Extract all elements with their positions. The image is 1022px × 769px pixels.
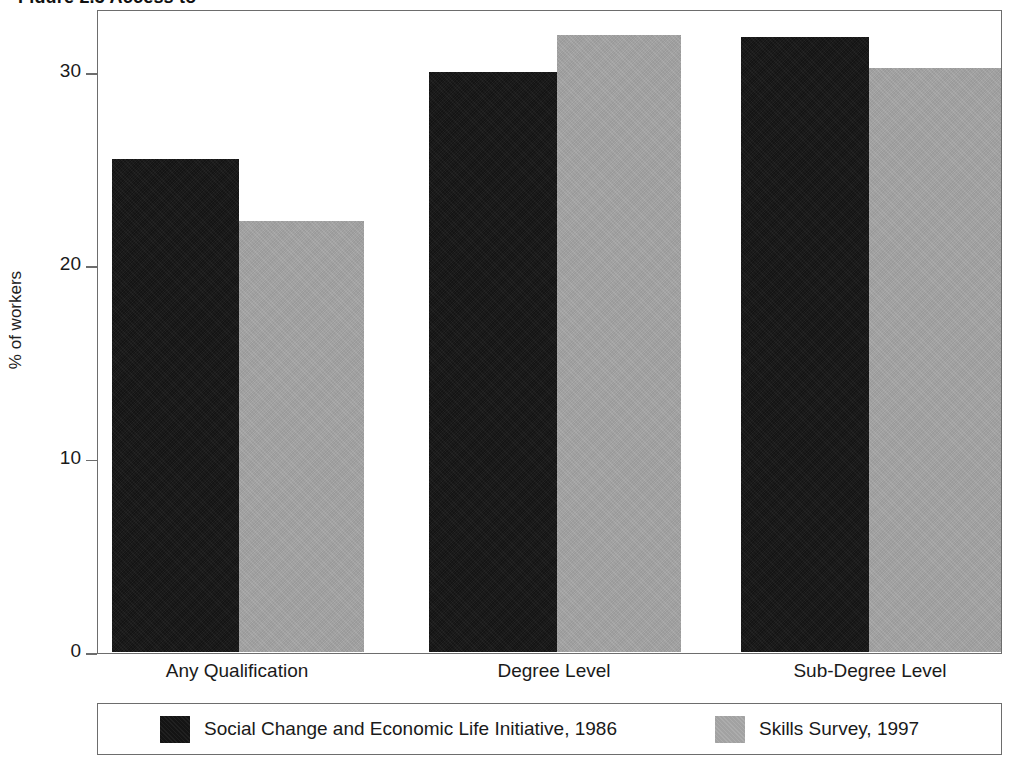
x-axis-category-label: Degree Level (404, 660, 704, 682)
legend-swatch-light (715, 716, 745, 743)
x-axis-category-label: Sub-Degree Level (720, 660, 1020, 682)
legend-entry: Skills Survey, 1997 (715, 716, 919, 743)
y-axis-tick-label: 30 (31, 60, 81, 82)
legend-entry: Social Change and Economic Life Initiati… (160, 716, 617, 743)
chart-legend: Social Change and Economic Life Initiati… (97, 703, 1002, 755)
legend-label: Skills Survey, 1997 (759, 718, 919, 740)
legend-swatch-dark (160, 716, 190, 743)
y-axis-tick-mark (86, 653, 97, 655)
bar-series1 (429, 72, 557, 652)
y-axis-tick-mark (86, 460, 97, 462)
figure-title: Figure 2.3 Access to (18, 0, 618, 3)
legend-label: Social Change and Economic Life Initiati… (204, 718, 617, 740)
bar-series2 (239, 221, 364, 652)
y-axis-tick-mark (86, 73, 97, 75)
plot-area (98, 11, 1001, 653)
y-axis-tick-label: 0 (31, 640, 81, 662)
y-axis-tick-mark (86, 266, 97, 268)
bar-series2 (869, 68, 1001, 652)
bar-series2 (557, 35, 681, 652)
bar-series1 (112, 159, 239, 652)
y-axis-tick-label: 20 (31, 253, 81, 275)
plot-frame (97, 10, 1002, 654)
figure-container: Figure 2.3 Access to % of workers 010203… (0, 0, 1022, 769)
y-axis-title: % of workers (6, 240, 26, 400)
bar-series1 (741, 37, 869, 652)
y-axis-tick-label: 10 (31, 447, 81, 469)
x-axis-category-label: Any Qualification (87, 660, 387, 682)
